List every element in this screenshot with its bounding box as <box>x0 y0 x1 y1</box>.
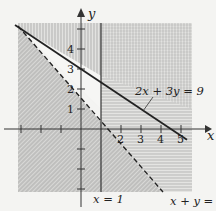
label-2x-3y-9: 2x + 3y = 9 <box>134 84 204 98</box>
y-tick-label: 3 <box>67 63 74 76</box>
y-axis-arrow-icon <box>77 8 85 17</box>
x-tick-label: 5 <box>177 133 184 146</box>
y-tick-label: 4 <box>67 43 74 56</box>
y-tick-label: 1 <box>67 103 74 116</box>
y-axis-label: y <box>87 6 96 21</box>
x-tick-label: 3 <box>137 133 144 146</box>
y-tick-label: 2 <box>67 83 74 96</box>
x-tick-label: 2 <box>117 133 124 146</box>
label-x-equals-1: x = 1 <box>93 192 124 206</box>
x-tick-label: 4 <box>157 133 164 146</box>
inequality-graph: 2 3 4 5 1 2 3 4 x y 2x + 3y = 9 x + y = … <box>0 0 216 211</box>
label-x-plus-y-2: x + y = 2 <box>170 194 216 208</box>
x-axis-label: x <box>207 128 215 143</box>
